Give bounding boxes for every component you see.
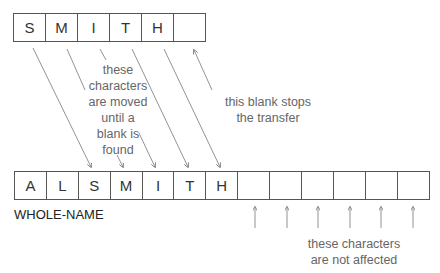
annotation-line: these <box>82 62 154 78</box>
target-cell-unaffected <box>334 172 366 199</box>
arrow-blank-stop <box>194 50 212 90</box>
annotation-line: found <box>82 142 154 158</box>
annotation-line: characters <box>82 78 154 94</box>
target-field-boxes: A L S M I T H <box>14 171 430 200</box>
target-cell: M <box>111 172 143 199</box>
target-cell: H <box>206 172 238 199</box>
arrow-i-top <box>100 49 106 60</box>
transfer-arrows <box>0 0 440 273</box>
variable-label: WHOLE-NAME <box>14 207 104 222</box>
annotation-line: the transfer <box>208 110 328 126</box>
annotation-moved: these characters are moved until a blank… <box>82 62 154 158</box>
annotation-line: are moved <box>82 94 154 110</box>
target-cell-unaffected <box>302 172 334 199</box>
annotation-line: are not affected <box>284 252 424 268</box>
target-cell-unaffected <box>366 172 398 199</box>
target-cell-unaffected <box>270 172 302 199</box>
target-cell-unaffected <box>398 172 430 199</box>
target-cell: A <box>15 172 47 199</box>
annotation-line: blank is <box>82 126 154 142</box>
annotation-blank-stops: this blank stops the transfer <box>208 94 328 126</box>
annotation-unaffected: these characters are not affected <box>284 236 424 268</box>
target-cell-unaffected <box>238 172 270 199</box>
target-cell: T <box>174 172 206 199</box>
target-cell: L <box>47 172 79 199</box>
annotation-line: these characters <box>284 236 424 252</box>
annotation-line: this blank stops <box>208 94 328 110</box>
target-cell: I <box>143 172 175 199</box>
annotation-line: until a <box>82 110 154 126</box>
target-cell: S <box>79 172 111 199</box>
